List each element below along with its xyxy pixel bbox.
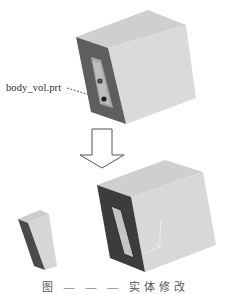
original-block: [76, 10, 196, 124]
hole-icon-lower: [101, 96, 106, 101]
extracted-piece: [18, 210, 57, 270]
figure-caption: 图 — — — 实体修改: [0, 278, 231, 294]
modified-block: [97, 160, 216, 272]
callout-label-body-vol: body_vol.prt: [6, 82, 61, 93]
down-arrow-icon: [80, 129, 124, 168]
